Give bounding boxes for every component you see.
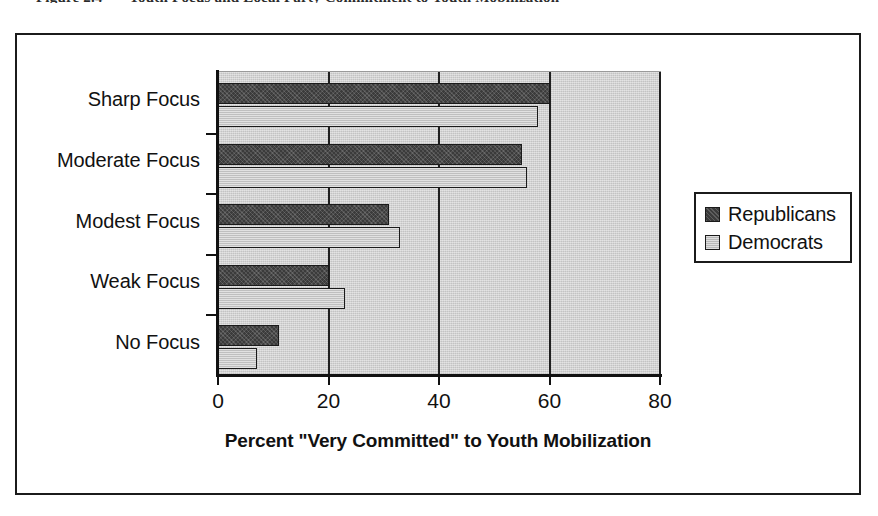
category-label-weak-focus: Weak Focus: [90, 270, 200, 293]
legend-swatch-democrats: [705, 235, 720, 250]
bar-democrats-moderate-focus: [218, 167, 527, 188]
x-axis-title: Percent "Very Committed" to Youth Mobili…: [15, 430, 861, 452]
x-tick-label-80: 80: [630, 389, 690, 413]
bar-republicans-sharp-focus: [218, 83, 550, 104]
x-axis-line: [216, 374, 662, 377]
category-label-sharp-focus: Sharp Focus: [88, 88, 200, 111]
gridline-80: [659, 72, 661, 375]
figure-caption-number: Figure 2.4: [36, 0, 103, 3]
bar-democrats-modest-focus: [218, 227, 400, 248]
bar-republicans-weak-focus: [218, 265, 329, 286]
legend-swatch-republicans: [705, 207, 720, 222]
legend-item-democrats: Democrats: [705, 228, 850, 256]
legend-label-republicans: Republicans: [728, 203, 836, 226]
figure-caption: Figure 2.4Youth Focus and Local Party Co…: [36, 0, 856, 3]
bar-republicans-no-focus: [218, 325, 279, 346]
category-label-moderate-focus: Moderate Focus: [57, 149, 200, 172]
category-label-modest-focus: Modest Focus: [76, 210, 200, 233]
x-tick-label-60: 60: [520, 389, 580, 413]
x-tick-label-20: 20: [299, 389, 359, 413]
x-tick-label-40: 40: [409, 389, 469, 413]
bar-democrats-weak-focus: [218, 288, 345, 309]
bar-democrats-sharp-focus: [218, 106, 538, 127]
legend-item-republicans: Republicans: [705, 200, 850, 228]
bar-republicans-modest-focus: [218, 204, 389, 225]
category-label-no-focus: No Focus: [115, 331, 200, 354]
gridline-60: [549, 72, 551, 375]
figure-caption-text: Youth Focus and Local Party Commitment t…: [129, 0, 560, 3]
chart-legend: Republicans Democrats: [694, 192, 852, 263]
bar-republicans-moderate-focus: [218, 144, 522, 165]
y-axis-line: [216, 70, 219, 377]
legend-label-democrats: Democrats: [728, 231, 823, 254]
x-tick-label-0: 0: [188, 389, 248, 413]
bar-democrats-no-focus: [218, 348, 257, 369]
